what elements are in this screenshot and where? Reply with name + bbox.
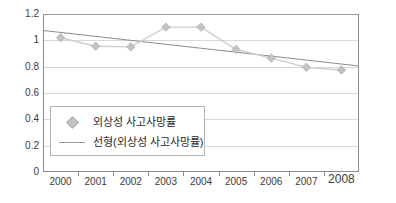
data-point-marker <box>267 54 275 62</box>
x-axis-tick-label: 2004 <box>190 176 212 188</box>
data-point-marker <box>197 23 205 31</box>
x-axis-tick-label: 2007 <box>295 176 317 188</box>
line-marker-icon <box>51 142 93 143</box>
y-axis-tick-label: 1 <box>5 35 39 45</box>
x-axis-tick-label: 2005 <box>225 176 247 188</box>
diamond-marker-icon <box>51 118 93 127</box>
trendline-path <box>43 30 359 66</box>
x-axis-tick-label: 2001 <box>85 176 107 188</box>
chart-container: 00.20.40.60.811.2 2000200120022003200420… <box>0 0 396 203</box>
x-axis-tick-label: 2002 <box>120 176 142 188</box>
x-axis-tick-label: 2000 <box>49 176 71 188</box>
data-point-marker <box>162 23 170 31</box>
y-axis-tick-label: 0 <box>5 167 39 177</box>
y-axis-tick-label: 0.6 <box>5 88 39 98</box>
legend-label-series: 외상성 사고사망률 <box>93 116 176 129</box>
x-axis-tick-label: 2008 <box>328 173 355 185</box>
chart-legend: 외상성 사고사망률 선형(외상성 사고사망률) <box>50 106 205 156</box>
data-point-marker <box>337 66 345 74</box>
y-axis-tick-label: 0.4 <box>5 114 39 124</box>
x-axis-labels: 200020012002200320042005200620072008 <box>43 176 359 196</box>
x-axis-tick-label: 2006 <box>260 176 282 188</box>
y-axis-tick-label: 0.8 <box>5 62 39 72</box>
data-point-marker <box>127 43 135 51</box>
data-point-marker <box>56 34 64 42</box>
x-axis-tick-label: 2003 <box>155 176 177 188</box>
legend-item-trendline: 선형(외상성 사고사망률) <box>51 132 204 152</box>
data-point-marker <box>302 63 310 71</box>
legend-item-series: 외상성 사고사망률 <box>51 112 204 132</box>
y-axis-tick-label: 0.2 <box>5 141 39 151</box>
legend-label-trendline: 선형(외상성 사고사망률) <box>93 136 203 149</box>
y-axis-labels: 00.20.40.60.811.2 <box>0 14 39 172</box>
y-axis-tick-label: 1.2 <box>5 9 39 19</box>
data-point-marker <box>91 42 99 50</box>
